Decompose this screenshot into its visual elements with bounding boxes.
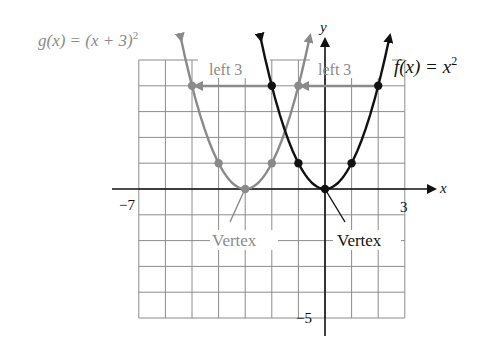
vertex-g-leader bbox=[230, 189, 245, 222]
x-min-tick-label: −7 bbox=[119, 197, 135, 213]
data-point bbox=[374, 82, 382, 90]
data-point bbox=[294, 159, 302, 167]
data-point bbox=[214, 159, 222, 167]
f-function-label: f(x) = x2 bbox=[394, 54, 457, 78]
shift-label-left: left 3 bbox=[209, 61, 242, 78]
y-axis-label: y bbox=[318, 19, 327, 35]
parabola-translation-graph: x y −7 3 −5 left 3 left 3 Vertex Vertex … bbox=[0, 0, 491, 346]
data-point bbox=[268, 82, 276, 90]
data-point bbox=[294, 82, 302, 90]
x-max-tick-label: 3 bbox=[400, 199, 408, 215]
data-point bbox=[188, 82, 196, 90]
y-min-tick-label: −5 bbox=[296, 310, 312, 326]
x-axis-label: x bbox=[439, 180, 447, 196]
g-function-label: g(x) = (x + 3)2 bbox=[38, 29, 138, 50]
vertex-f-label: Vertex bbox=[337, 231, 382, 250]
data-point bbox=[347, 159, 355, 167]
data-point bbox=[268, 159, 276, 167]
data-point bbox=[241, 185, 249, 193]
shift-label-right: left 3 bbox=[318, 61, 351, 78]
vertex-f-leader bbox=[325, 189, 345, 222]
vertex-g-label: Vertex bbox=[212, 231, 257, 250]
